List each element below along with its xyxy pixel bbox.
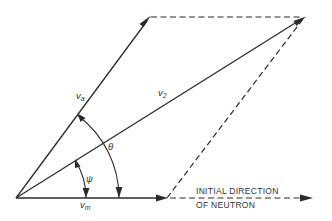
- symbol-labels: va v2 θ ψ vm: [76, 87, 167, 211]
- vector-va: [16, 21, 147, 198]
- angle-arcs: [75, 114, 123, 199]
- psi-arc-arrowhead-top: [75, 159, 81, 168]
- vector-va-arrowhead: [140, 16, 152, 28]
- velocity-vectors: [16, 16, 306, 202]
- vector-v2: [16, 20, 300, 198]
- theta-arc-arrowhead-bottom: [116, 187, 123, 198]
- parallelogram-dashed-sides: [151, 17, 313, 202]
- label-va: va: [76, 90, 85, 102]
- vector-diagram: va v2 θ ψ vm INITIAL DIRECTION OF NEUTRO…: [0, 0, 332, 221]
- label-theta: θ: [108, 141, 114, 152]
- label-psi: ψ: [86, 173, 93, 184]
- initial-direction-arrowhead: [300, 195, 313, 202]
- caption-line-2: OF NEUTRON: [196, 200, 255, 210]
- dashed-right-side: [167, 19, 303, 198]
- label-vm: vm: [80, 199, 91, 211]
- psi-arc-arrowhead-bottom: [83, 188, 90, 198]
- vector-vm-arrowhead: [156, 195, 168, 202]
- caption-line-1: INITIAL DIRECTION: [196, 186, 279, 196]
- vector-v2-arrowhead: [294, 17, 307, 27]
- label-v2: v2: [158, 87, 167, 99]
